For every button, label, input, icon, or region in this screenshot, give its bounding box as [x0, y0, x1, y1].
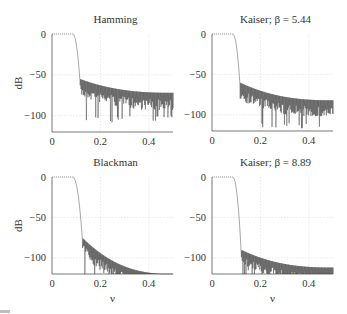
axes [212, 177, 333, 274]
y-tick-label: −100 [184, 109, 206, 120]
magnitude-response-trace [233, 34, 334, 128]
axes [52, 34, 173, 132]
x-tick-label: 0 [49, 136, 54, 147]
figure-2x2-window-responses: 00.20.40−50−100HammingdB00.20.40−50−100K… [0, 0, 347, 314]
x-tick-label: 0.4 [142, 136, 156, 147]
y-tick-label: −100 [24, 252, 46, 263]
x-axis-label: ν [270, 292, 275, 304]
x-tick-label: 0 [209, 278, 214, 289]
x-axis-label: ν [110, 292, 115, 304]
x-tick-label: 0.4 [302, 278, 316, 289]
x-tick-label: 0.4 [302, 135, 316, 146]
x-tick-label: 0.2 [254, 135, 267, 146]
x-tick-label: 0.2 [94, 278, 107, 289]
panel-blackman: 00.20.40−50−100BlackmandBν [12, 156, 173, 304]
y-tick-label: −100 [24, 110, 46, 121]
y-tick-label: −50 [190, 212, 206, 223]
panel-kaiser544: 00.20.40−50−100Kaiser; β = 5.44 [184, 13, 333, 146]
panel-hamming: 00.20.40−50−100HammingdB [12, 13, 173, 147]
figure-caption-fragment [0, 310, 10, 313]
y-tick-label: 0 [201, 172, 206, 183]
x-tick-label: 0.2 [254, 278, 267, 289]
y-tick-label: −50 [30, 69, 46, 80]
panel-title: Kaiser; β = 5.44 [240, 13, 312, 25]
y-tick-label: −100 [184, 252, 206, 263]
axes [52, 177, 173, 274]
y-tick-label: −50 [190, 69, 206, 80]
panel-kaiser889: 00.20.40−50−100Kaiser; β = 8.89ν [184, 156, 333, 304]
plots-canvas: 00.20.40−50−100HammingdB00.20.40−50−100K… [0, 0, 347, 314]
y-tick-label: 0 [41, 172, 46, 183]
y-axis-label: dB [12, 219, 24, 232]
magnitude-response-trace [233, 177, 334, 274]
x-tick-label: 0.4 [142, 278, 156, 289]
panel-title: Blackman [93, 156, 138, 168]
x-tick-label: 0.2 [94, 136, 107, 147]
magnitude-response-trace [73, 34, 174, 122]
y-axis-label: dB [12, 77, 24, 90]
x-tick-label: 0 [49, 278, 54, 289]
axes [212, 34, 333, 131]
y-tick-label: −50 [30, 212, 46, 223]
panel-title: Hamming [94, 13, 138, 25]
magnitude-response-trace [73, 177, 174, 274]
panel-title: Kaiser; β = 8.89 [240, 156, 312, 168]
x-tick-label: 0 [209, 135, 214, 146]
y-tick-label: 0 [201, 29, 206, 40]
y-tick-label: 0 [41, 29, 46, 40]
